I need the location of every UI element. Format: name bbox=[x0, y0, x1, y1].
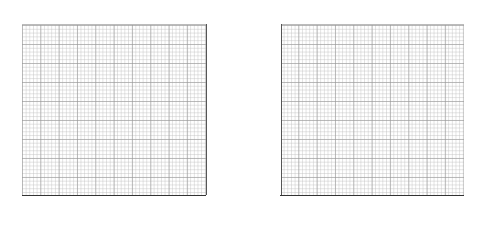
boys-x-axis bbox=[280, 195, 464, 196]
boys-grid bbox=[280, 24, 464, 196]
category-labels bbox=[206, 24, 282, 195]
girls-grid bbox=[22, 24, 206, 196]
girls-x-axis bbox=[22, 195, 206, 196]
